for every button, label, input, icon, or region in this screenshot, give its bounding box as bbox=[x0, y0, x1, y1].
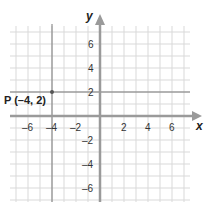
coordinate-plane: x y P (–4, 2) –6 –4 –2 2 4 6 6 4 2 –2 –4… bbox=[0, 0, 210, 208]
y-tick: –2 bbox=[82, 135, 94, 146]
x-axis-label: x bbox=[195, 119, 204, 133]
axes bbox=[10, 14, 202, 202]
y-tick: –4 bbox=[82, 159, 94, 170]
y-tick: –6 bbox=[82, 183, 94, 194]
y-axis-label: y bbox=[85, 9, 94, 23]
y-axis-arrow-icon bbox=[95, 14, 105, 25]
x-tick: 6 bbox=[169, 122, 175, 133]
x-tick: –6 bbox=[22, 122, 34, 133]
x-tick: –4 bbox=[46, 122, 58, 133]
y-tick: 4 bbox=[88, 63, 94, 74]
x-tick: –2 bbox=[70, 122, 82, 133]
y-tick: 2 bbox=[88, 87, 94, 98]
x-tick: 4 bbox=[145, 122, 151, 133]
point-p bbox=[50, 90, 54, 94]
x-tick: 2 bbox=[121, 122, 127, 133]
y-tick: 6 bbox=[88, 39, 94, 50]
point-p-label: P (–4, 2) bbox=[4, 94, 46, 106]
